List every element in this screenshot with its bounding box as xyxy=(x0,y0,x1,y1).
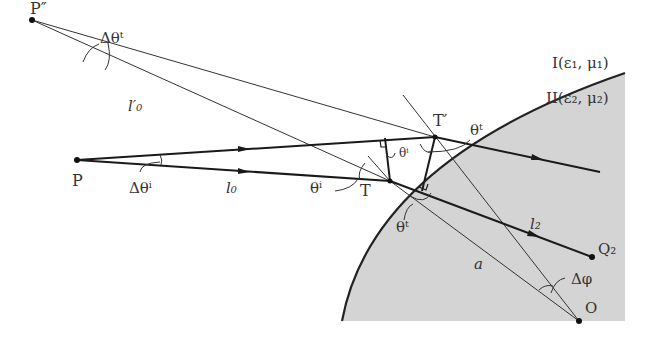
label-l2: l₂ xyxy=(530,215,541,233)
diagram-canvas: P″ Δθᵗ l′₀ P Δθⁱ l₀ θⁱ T θⁱ T′ θᵗ θᵗ l₂ … xyxy=(0,0,647,337)
ray-p-to-tprime xyxy=(77,137,435,160)
label-delta-theta-t: Δθᵗ xyxy=(100,29,124,47)
label-p-double-prime: P″ xyxy=(30,0,47,18)
label-delta-phi: Δφ xyxy=(571,270,592,288)
label-theta-t-top: θᵗ xyxy=(470,121,483,139)
refraction-diagram: P″ Δθᵗ l′₀ P Δθⁱ l₀ θⁱ T θⁱ T′ θᵗ θᵗ l₂ … xyxy=(0,0,647,337)
wavefront-incident xyxy=(385,138,390,181)
point-t-prime xyxy=(433,135,438,140)
line-p2-to-tprime xyxy=(32,20,435,137)
label-p: P xyxy=(72,171,83,190)
label-delta-theta-i: Δθⁱ xyxy=(129,179,152,197)
arrow-upper-ray xyxy=(238,146,250,152)
leader-theta-i-left xyxy=(335,179,358,191)
point-p xyxy=(74,157,80,163)
label-l0: l₀ xyxy=(226,179,237,197)
point-o xyxy=(576,318,582,324)
arc-delta-theta-t xyxy=(105,43,109,70)
label-t-prime: T′ xyxy=(433,111,448,130)
label-t: T xyxy=(360,181,371,200)
label-theta-i-left: θⁱ xyxy=(310,179,322,197)
label-theta-i-small: θⁱ xyxy=(399,146,409,160)
label-medium-2: II(ε₂, μ₂) xyxy=(546,89,609,107)
label-a: a xyxy=(474,255,483,273)
line-p2-to-t xyxy=(32,20,390,181)
arc-theta-i-left xyxy=(359,163,365,180)
label-medium-1: I(ε₁, μ₁) xyxy=(552,54,609,72)
label-theta-t-bottom: θᵗ xyxy=(396,218,409,236)
point-t xyxy=(388,179,393,184)
arc-delta-theta-i xyxy=(160,155,162,165)
label-o: O xyxy=(585,299,597,317)
label-l0-prime: l′₀ xyxy=(128,97,142,115)
arc-theta-t-top xyxy=(420,144,431,152)
ray-p-to-t xyxy=(77,160,390,181)
label-q2: Q₂ xyxy=(598,240,616,258)
point-q2 xyxy=(589,254,595,260)
